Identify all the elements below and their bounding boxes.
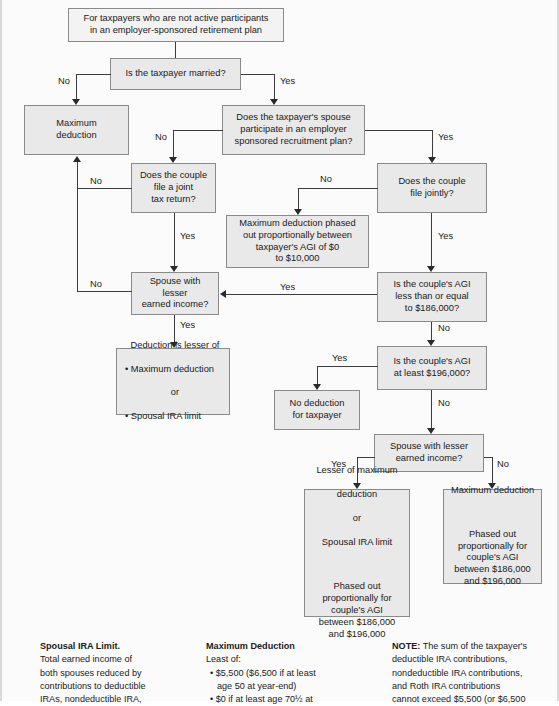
footer-col-note: NOTE: The sum of the taxpayer's deductib… — [392, 640, 559, 706]
footer-line: IRAs, nondeductible IRA, — [40, 693, 190, 706]
label-fj-no: No — [320, 174, 332, 184]
deduction-lesser-item1: • Maximum deduction — [125, 364, 225, 376]
edge-agi196-yes-v — [317, 366, 318, 384]
edge-fj-no-h — [298, 188, 378, 189]
edge-agi186-no-v — [431, 322, 432, 340]
arrow-spouse-no — [169, 157, 177, 163]
node-q-agi-at-least-196000: Is the couple's AGI at least $196,000? — [377, 346, 487, 390]
spacer — [309, 560, 405, 569]
arrow-joint-no-up — [73, 156, 81, 162]
footer-heading-spousal: Spousal IRA Limit. — [40, 640, 190, 653]
edge-spouse-yes-v — [432, 130, 433, 157]
footer-line: nondeductible IRA contributions, — [392, 667, 559, 680]
edge-slleft-yes-v — [174, 315, 175, 342]
node-q-spouse-participates: Does the taxpayer's spouse participate i… — [222, 105, 365, 155]
node-q-file-jointly: Does the couple file jointly? — [377, 163, 487, 213]
edge-joint-no-h — [77, 188, 132, 189]
label-married-yes: Yes — [280, 76, 295, 86]
label-slright-yes: Yes — [331, 459, 346, 469]
footer-col-maximum-deduction: Maximum Deduction Least of: • $5,500 ($6… — [206, 640, 371, 706]
edge-spouse-no-v — [173, 130, 174, 157]
node-lesser-of-maximum: Lesser of maximum deduction or Spousal I… — [304, 489, 410, 617]
lesser-max-phase: Phased out proportionally for couple's A… — [309, 581, 405, 640]
label-agi196-yes: Yes — [332, 353, 347, 363]
footer-col-spousal-ira-limit: Spousal IRA Limit. Total earned income o… — [40, 640, 190, 706]
node-phased-0-10000: Maximum deduction phased out proportiona… — [226, 215, 369, 268]
deduction-lesser-or: or — [125, 387, 225, 399]
footer-line: and Roth IRA contributions — [392, 680, 559, 693]
arrow-fj-yes — [427, 266, 435, 272]
node-maximum-deduction-right: Maximum deduction Phased out proportiona… — [443, 489, 542, 584]
edge-fj-no-v — [298, 188, 299, 209]
footer-bullet-cont: age 50 at year-end) — [206, 680, 371, 693]
lesser-max-line2: deduction — [309, 489, 405, 501]
footer-line: both spouses reduced by — [40, 667, 190, 680]
arrow-fj-no — [294, 209, 302, 215]
edge-married-yes-v — [274, 74, 275, 99]
edge-header-to-married — [175, 42, 176, 58]
edge-joint-no-v — [77, 161, 78, 189]
edge-slright-yes-v — [357, 457, 358, 483]
label-spouse-no: No — [155, 132, 167, 142]
footer-subhead-leastof: Least of: — [206, 653, 371, 666]
footer-bullet: • $5,500 ($6,500 if at least — [206, 667, 371, 680]
label-slright-no: No — [497, 459, 509, 469]
arrow-married-yes — [270, 99, 278, 105]
deduction-lesser-item2: • Spousal IRA limit — [125, 411, 225, 423]
label-slleft-yes: Yes — [180, 320, 195, 330]
lesser-max-or: or — [309, 513, 405, 525]
edge-spouse-no-h — [173, 130, 223, 131]
label-agi186-no: No — [438, 323, 450, 333]
label-slleft-no: No — [90, 279, 102, 289]
edge-slleft-no-h — [77, 291, 132, 292]
node-q-joint-return: Does the couple file a joint tax return? — [131, 163, 216, 213]
edge-joint-yes-v — [174, 213, 175, 266]
label-joint-no: No — [90, 176, 102, 186]
node-no-deduction: No deduction for taxpayer — [274, 390, 360, 430]
label-spouse-yes: Yes — [438, 132, 453, 142]
footer-line: deductible IRA contributions, — [392, 653, 559, 666]
footer-bullet: • $0 if at least age 70½ at — [206, 693, 371, 706]
footer-note-lead: The sum of the taxpayer's — [420, 641, 527, 651]
edge-slright-yes-h — [357, 457, 375, 458]
footer-note-first-line: NOTE: The sum of the taxpayer's — [392, 640, 559, 653]
edge-slright-no-v — [492, 457, 493, 483]
edge-fj-yes-v — [431, 213, 432, 266]
label-married-no: No — [58, 76, 70, 86]
label-agi196-no: No — [438, 398, 450, 408]
arrow-agi196-yes — [313, 384, 321, 390]
edge-married-yes-h — [241, 74, 275, 75]
label-agi186-yes: Yes — [280, 282, 295, 292]
node-q-married: Is the taxpayer married? — [110, 58, 241, 90]
edge-married-no-v — [76, 74, 77, 99]
arrow-agi196-no — [427, 428, 435, 434]
spacer — [448, 509, 537, 517]
edge-married-no-h — [76, 74, 111, 75]
edge-spouse-yes-h — [365, 130, 433, 131]
arrow-slleft-yes — [170, 342, 178, 348]
footer-line: Total earned income of — [40, 653, 190, 666]
arrow-spouse-yes — [428, 157, 436, 163]
node-deduction-lesser-of: Deduction is lesser of • Maximum deducti… — [116, 348, 230, 415]
footer-line: cannot exceed $5,500 (or $6,500 — [392, 693, 559, 706]
edge-agi186-yes-h — [226, 294, 377, 295]
arrow-agi186-yes — [220, 290, 226, 298]
edge-agi196-yes-h — [317, 366, 378, 367]
node-max-deduction: Maximum deduction — [24, 105, 129, 155]
node-q-spouse-lesser-left: Spouse with lesser earned income? — [131, 272, 219, 315]
node-q-agi-le-186000: Is the couple's AGI less than or equal t… — [377, 272, 487, 322]
label-fj-yes: Yes — [438, 231, 453, 241]
arrow-slright-no — [488, 483, 496, 489]
edge-slleft-no-v — [77, 188, 78, 292]
footer-heading-maxded: Maximum Deduction — [206, 640, 371, 653]
arrow-agi186-no — [427, 340, 435, 346]
label-joint-yes: Yes — [180, 231, 195, 241]
max-ded-right-phase: Phased out proportionally for couple's A… — [448, 529, 537, 588]
lesser-max-line3: Spousal IRA limit — [309, 537, 405, 549]
arrow-married-no — [72, 99, 80, 105]
arrow-slright-yes — [353, 483, 361, 489]
edge-agi196-no-v — [431, 390, 432, 428]
footer-line: contributions to deductible — [40, 680, 190, 693]
arrow-joint-yes — [170, 266, 178, 272]
